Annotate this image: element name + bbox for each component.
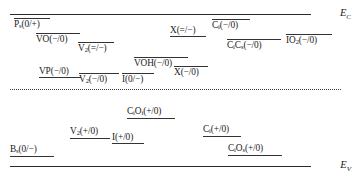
- level-label-i-plus: I(+/0): [112, 133, 144, 143]
- defect-level-vp: VP(−/0): [39, 67, 81, 78]
- level-charge-state: (−/0): [154, 58, 172, 68]
- level-charge-state: (−/0): [89, 74, 107, 84]
- level-charge-state: (=/−): [88, 43, 107, 53]
- conduction-band-line: [10, 14, 311, 15]
- level-tick-cioi: [127, 118, 175, 119]
- valence-band-subscript: V: [347, 165, 351, 173]
- defect-level-diagram: EC EV Ps(0/+)VO(−/0)V2(=/−)X(=/−)Ci(−/0)…: [0, 0, 355, 181]
- level-label-bs: Bs(0/−): [10, 145, 54, 155]
- level-tick-v2-plus: [70, 138, 110, 139]
- level-charge-state: (0/−): [19, 144, 37, 154]
- defect-level-x-double: X(=/−): [170, 26, 206, 37]
- level-label-vo: VO(−/0): [36, 35, 80, 45]
- defect-level-vo: VO(−/0): [36, 33, 80, 44]
- level-charge-state: (+/0): [245, 143, 263, 153]
- level-label-cioi: CiOi(+/0): [127, 107, 175, 117]
- level-tick-x-double: [170, 36, 206, 37]
- level-charge-state: (−/0): [220, 20, 238, 30]
- defect-level-v2-double: V2(=/−): [78, 42, 114, 54]
- defect-level-x-minus: X(−/0): [174, 66, 208, 77]
- level-label-ci-minus: Ci(−/0): [212, 21, 250, 31]
- level-tick-cios: [228, 155, 282, 156]
- level-subscript: i: [234, 146, 236, 153]
- level-label-v2-plus: V2(+/0): [70, 127, 110, 137]
- defect-level-bs: Bs(0/−): [10, 145, 54, 157]
- defect-level-v2-minus: V2(−/0): [79, 73, 119, 85]
- level-charge-state: (−/0): [181, 67, 199, 77]
- defect-level-cioi: CiOi(+/0): [127, 107, 175, 119]
- conduction-band-subscript: C: [346, 13, 351, 21]
- level-label-cics: CiCs(−/0): [227, 41, 281, 51]
- level-charge-state: (+/0): [143, 106, 161, 116]
- level-label-v2-minus: V2(−/0): [79, 75, 119, 85]
- level-charge-state: (0/+): [22, 19, 40, 29]
- level-charge-state: (−/0): [243, 40, 261, 50]
- level-label-cios: CiOs(+/0): [228, 144, 282, 154]
- level-subscript: i: [133, 109, 135, 116]
- level-tick-ci-plus: [203, 136, 241, 137]
- level-label-i-zero: I(0/−): [122, 75, 154, 85]
- level-tick-i-plus: [112, 143, 144, 144]
- level-label-vp: VP(−/0): [39, 67, 81, 77]
- level-charge-state: (+/0): [211, 124, 229, 134]
- level-charge-state: (−/0): [299, 35, 317, 45]
- level-charge-state: (−/0): [49, 34, 67, 44]
- level-tick-bs: [10, 156, 54, 157]
- defect-level-ci-plus: Ci(+/0): [203, 125, 241, 137]
- level-charge-state: (0/−): [125, 74, 143, 84]
- level-label-ci-plus: Ci(+/0): [203, 125, 241, 135]
- defect-level-ps: Ps(0/+): [14, 18, 50, 30]
- defect-level-cics: CiCs(−/0): [227, 39, 281, 51]
- level-charge-state: (=/−): [177, 25, 196, 35]
- level-label-x-double: X(=/−): [170, 26, 206, 36]
- defect-level-cios: CiOs(+/0): [228, 144, 282, 156]
- level-label-ps: Ps(0/+): [14, 20, 50, 30]
- defect-level-i-plus: I(+/0): [112, 133, 144, 144]
- conduction-band-label: EC: [340, 7, 351, 21]
- defect-level-i-zero: I(0/−): [122, 73, 154, 84]
- level-charge-state: (−/0): [51, 66, 69, 76]
- valence-band-line: [10, 166, 311, 167]
- level-charge-state: (+/0): [80, 126, 98, 136]
- level-label-x-minus: X(−/0): [174, 68, 208, 78]
- level-charge-state: (+/0): [115, 132, 133, 142]
- level-tick-vp: [39, 77, 81, 78]
- level-label-v2-double: V2(=/−): [78, 44, 114, 54]
- defect-level-io2: IO2(−/0): [286, 34, 332, 46]
- midgap-dotted-line: [10, 89, 341, 90]
- level-subscript: i: [233, 43, 235, 50]
- defect-level-v2-plus: V2(+/0): [70, 127, 110, 139]
- valence-band-label: EV: [340, 159, 351, 173]
- defect-level-ci-minus: Ci(−/0): [212, 19, 250, 31]
- level-label-io2: IO2(−/0): [286, 36, 332, 46]
